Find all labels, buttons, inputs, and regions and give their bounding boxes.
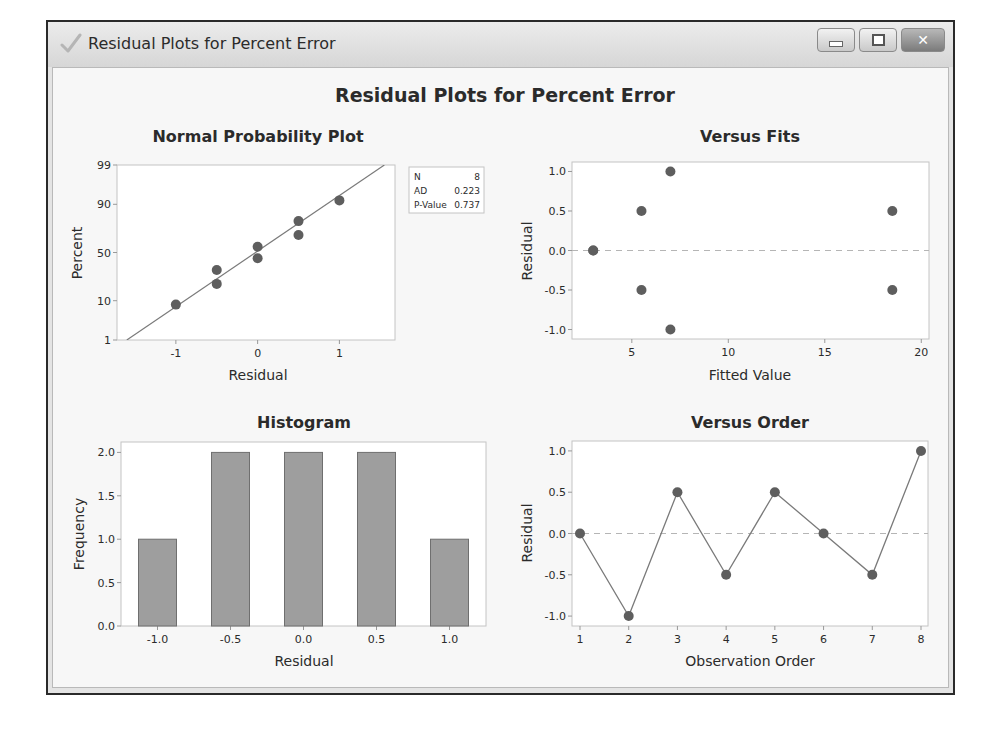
data-point — [575, 529, 585, 539]
npp-xlabel: Residual — [228, 367, 287, 383]
x-tick-label: 4 — [723, 633, 730, 646]
x-tick-label: 7 — [869, 633, 876, 646]
y-tick-label: 0.0 — [549, 245, 567, 258]
x-tick-label: 6 — [820, 633, 827, 646]
order-ylabel: Residual — [519, 503, 535, 562]
data-point — [636, 206, 646, 216]
x-tick-label: 0.0 — [295, 633, 313, 646]
y-tick-label: 1 — [104, 334, 111, 347]
x-tick-label: -1.0 — [147, 633, 168, 646]
x-tick-label: 8 — [918, 633, 925, 646]
data-point — [212, 265, 222, 275]
x-tick-label: 0.5 — [368, 633, 386, 646]
legend-pvalue-value: 0.737 — [454, 200, 480, 210]
y-tick-label: 0.5 — [98, 577, 116, 590]
fits-xlabel: Fitted Value — [709, 367, 791, 383]
order-xlabel: Observation Order — [685, 653, 815, 669]
histogram-plot: Histogram 0.00.51.01.52.0-1.0-0.50.00.51… — [71, 413, 486, 669]
histogram-bar — [285, 452, 323, 626]
data-point — [294, 216, 304, 226]
y-tick-label: 99 — [97, 159, 111, 172]
y-tick-label: 1.0 — [549, 165, 567, 178]
residual-plots-figure: Residual Plots for Percent Error Normal … — [0, 0, 1003, 741]
y-tick-label: 0.5 — [549, 205, 567, 218]
histogram-bar — [431, 539, 469, 626]
data-point — [171, 300, 181, 310]
data-point — [770, 487, 780, 497]
normal-probability-plot: Normal Probability Plot 110509099-101 Re… — [69, 127, 484, 383]
y-tick-label: 50 — [97, 247, 111, 260]
versus-fits-plot: Versus Fits -1.0-0.50.00.51.05101520 Fit… — [519, 127, 929, 383]
y-tick-label: -1.0 — [545, 610, 566, 623]
histogram-bar — [358, 452, 396, 626]
y-tick-label: 1.5 — [98, 490, 116, 503]
order-title: Versus Order — [691, 413, 809, 432]
y-tick-label: 90 — [97, 198, 111, 211]
histogram-bar — [139, 539, 177, 626]
hist-title: Histogram — [257, 413, 351, 432]
data-point — [887, 206, 897, 216]
y-tick-label: 1.0 — [98, 533, 116, 546]
y-tick-label: 10 — [97, 295, 111, 308]
data-point — [672, 487, 682, 497]
data-point — [819, 529, 829, 539]
fits-title: Versus Fits — [700, 127, 800, 146]
fits-ylabel: Residual — [519, 221, 535, 280]
y-tick-label: 0.0 — [549, 528, 567, 541]
data-point — [665, 166, 675, 176]
x-tick-label: -1 — [170, 347, 181, 360]
y-tick-label: 1.0 — [549, 445, 567, 458]
x-tick-label: 15 — [818, 346, 832, 359]
data-point — [253, 253, 263, 263]
x-tick-label: 5 — [628, 346, 635, 359]
legend-n-label: N — [414, 172, 421, 182]
legend-n-value: 8 — [474, 172, 480, 182]
y-tick-label: 2.0 — [98, 446, 116, 459]
data-point — [867, 570, 877, 580]
legend-ad-label: AD — [414, 186, 427, 196]
versus-order-plot: Versus Order -1.0-0.50.00.51.012345678 O… — [519, 413, 928, 669]
npp-legend: N 8 AD 0.223 P-Value 0.737 — [409, 167, 484, 213]
data-point — [721, 570, 731, 580]
x-tick-label: 1 — [336, 347, 343, 360]
data-point — [212, 279, 222, 289]
hist-xlabel: Residual — [274, 653, 333, 669]
data-point — [636, 285, 646, 295]
x-tick-label: 1.0 — [441, 633, 459, 646]
x-tick-label: -0.5 — [220, 633, 241, 646]
x-tick-label: 0 — [254, 347, 261, 360]
y-tick-label: -0.5 — [545, 284, 566, 297]
data-point — [294, 230, 304, 240]
data-point — [665, 325, 675, 335]
data-point — [253, 242, 263, 252]
y-tick-label: -0.5 — [545, 569, 566, 582]
x-tick-label: 1 — [577, 633, 584, 646]
histogram-bar — [212, 452, 250, 626]
x-tick-label: 2 — [625, 633, 632, 646]
x-tick-label: 3 — [674, 633, 681, 646]
npp-ylabel: Percent — [69, 226, 85, 279]
figure-title: Residual Plots for Percent Error — [335, 84, 676, 106]
x-tick-label: 20 — [914, 346, 928, 359]
data-point — [916, 446, 926, 456]
x-tick-label: 5 — [771, 633, 778, 646]
data-point — [588, 246, 598, 256]
data-point — [624, 611, 634, 621]
y-tick-label: 0.0 — [98, 620, 116, 633]
y-tick-label: 0.5 — [549, 486, 567, 499]
legend-ad-value: 0.223 — [454, 186, 480, 196]
y-tick-label: -1.0 — [545, 324, 566, 337]
legend-pvalue-label: P-Value — [414, 200, 447, 210]
npp-title: Normal Probability Plot — [152, 127, 363, 146]
hist-ylabel: Frequency — [71, 498, 87, 570]
data-point — [887, 285, 897, 295]
x-tick-label: 10 — [721, 346, 735, 359]
data-point — [334, 195, 344, 205]
